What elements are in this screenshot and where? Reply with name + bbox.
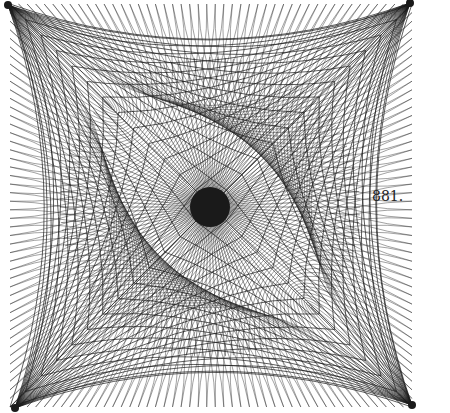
figure-number: 881. xyxy=(372,188,403,204)
string-art-figure xyxy=(0,0,450,413)
center-blob xyxy=(190,187,230,227)
